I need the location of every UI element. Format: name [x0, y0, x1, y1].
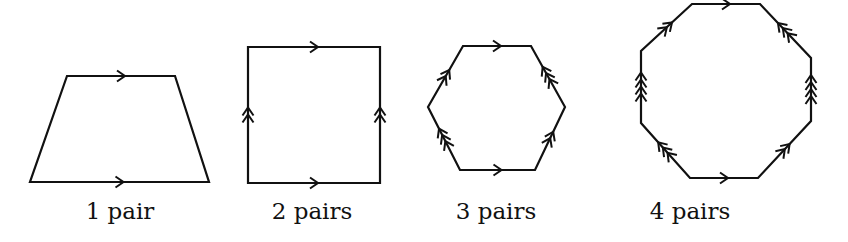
hexagon-shape: [428, 41, 565, 176]
square-shape: [243, 42, 386, 189]
label-square: 2 pairs: [272, 198, 353, 224]
trapezoid-outline: [30, 76, 209, 182]
label-hexagon: 3 pairs: [456, 198, 537, 224]
hexagon-outline: [428, 46, 565, 170]
octagon-shape: [636, 0, 817, 184]
square-outline: [248, 47, 380, 183]
label-trapezoid: 1 pair: [86, 198, 155, 224]
trapezoid-shape: [30, 71, 209, 188]
label-octagon: 4 pairs: [650, 198, 731, 224]
